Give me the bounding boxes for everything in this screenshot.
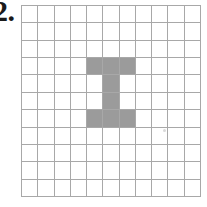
grid-cell xyxy=(136,145,152,162)
grid-cell xyxy=(152,162,168,179)
grid-cell xyxy=(103,162,119,179)
grid xyxy=(21,5,201,197)
grid-cell xyxy=(168,162,184,179)
grid-cell xyxy=(120,128,136,145)
grid-cell xyxy=(22,58,38,75)
grid-cell xyxy=(136,58,152,75)
grid-cell xyxy=(120,41,136,58)
grid-cell xyxy=(136,6,152,23)
grid-cell xyxy=(120,162,136,179)
grid-cell xyxy=(71,145,87,162)
grid-cell xyxy=(152,93,168,110)
grid-cell xyxy=(103,145,119,162)
grid-cell xyxy=(22,180,38,197)
grid-cell xyxy=(55,145,71,162)
grid-cell xyxy=(120,6,136,23)
grid-cell xyxy=(103,128,119,145)
grid-cell xyxy=(185,180,201,197)
grid-cell xyxy=(22,110,38,127)
grid-cell xyxy=(71,162,87,179)
grid-cell xyxy=(87,180,103,197)
grid-cell xyxy=(22,75,38,92)
grid-cell xyxy=(120,23,136,40)
grid-cell xyxy=(22,23,38,40)
grid-cell xyxy=(152,180,168,197)
grid-cell xyxy=(152,41,168,58)
grid-cell xyxy=(168,180,184,197)
grid-cell xyxy=(71,128,87,145)
grid-cell xyxy=(71,23,87,40)
grid-cell-shaded xyxy=(120,110,136,127)
grid-cell xyxy=(185,128,201,145)
grid-cell xyxy=(136,180,152,197)
grid-cell-shaded xyxy=(103,110,119,127)
grid-cell xyxy=(22,41,38,58)
grid-cell xyxy=(136,93,152,110)
grid-cell xyxy=(103,180,119,197)
grid-cell xyxy=(71,110,87,127)
grid-cell xyxy=(152,75,168,92)
grid-cell xyxy=(185,162,201,179)
grid-cell xyxy=(87,75,103,92)
grid-cell xyxy=(38,145,54,162)
grid-cell xyxy=(87,93,103,110)
grid-cell xyxy=(55,75,71,92)
grid-cell xyxy=(38,41,54,58)
problem-number-label: 2. xyxy=(0,0,15,26)
grid-cell xyxy=(136,128,152,145)
grid-cell xyxy=(185,23,201,40)
grid-cell xyxy=(38,23,54,40)
grid-cell xyxy=(136,162,152,179)
grid-cell xyxy=(55,110,71,127)
grid-cell xyxy=(71,41,87,58)
grid-cell xyxy=(168,93,184,110)
grid-cell xyxy=(71,93,87,110)
grid-cell xyxy=(168,145,184,162)
grid-cell xyxy=(22,128,38,145)
grid-cell xyxy=(185,145,201,162)
grid-cell xyxy=(152,6,168,23)
grid-cell-shaded xyxy=(87,110,103,127)
grid-cell xyxy=(55,93,71,110)
grid-cell xyxy=(185,41,201,58)
grid-cell xyxy=(152,128,168,145)
grid-cell-shaded xyxy=(103,75,119,92)
grid-cell xyxy=(152,110,168,127)
grid-cell xyxy=(22,145,38,162)
grid-cell xyxy=(168,128,184,145)
grid-cell xyxy=(152,58,168,75)
grid-cell xyxy=(55,58,71,75)
grid-cell xyxy=(136,23,152,40)
grid-cell xyxy=(87,145,103,162)
grid-cell xyxy=(22,93,38,110)
grid-cell xyxy=(185,110,201,127)
grid-cell xyxy=(136,75,152,92)
grid-cell xyxy=(55,23,71,40)
grid-cell xyxy=(185,93,201,110)
grid-cell-shaded xyxy=(87,58,103,75)
grid-cell xyxy=(87,41,103,58)
grid-cell xyxy=(103,41,119,58)
grid-cell xyxy=(55,6,71,23)
grid-cell xyxy=(185,58,201,75)
scan-speck xyxy=(163,129,166,132)
grid-cell xyxy=(55,41,71,58)
grid-cell xyxy=(71,75,87,92)
grid-cell-shaded xyxy=(103,58,119,75)
grid-cell xyxy=(87,6,103,23)
grid-cell xyxy=(103,23,119,40)
grid-cell xyxy=(87,162,103,179)
grid-cell xyxy=(71,6,87,23)
grid-cell xyxy=(38,110,54,127)
grid-cell xyxy=(22,162,38,179)
grid-cell xyxy=(38,162,54,179)
grid-cell xyxy=(168,41,184,58)
grid-cell xyxy=(71,58,87,75)
grid-cell xyxy=(55,180,71,197)
grid-cell xyxy=(71,180,87,197)
grid-cell xyxy=(120,145,136,162)
grid-cell xyxy=(38,180,54,197)
grid-cell xyxy=(38,6,54,23)
grid-cell xyxy=(168,23,184,40)
grid-cell xyxy=(38,75,54,92)
